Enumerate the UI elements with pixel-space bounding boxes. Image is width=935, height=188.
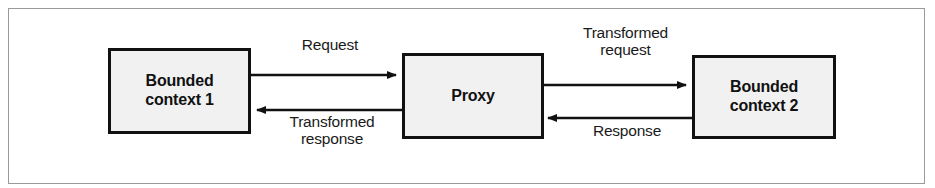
- node-proxy-label: Proxy: [451, 87, 494, 106]
- node-bounded-context-2: Bounded context 2: [692, 55, 836, 139]
- node-bounded-context-2-label: Bounded context 2: [730, 78, 798, 116]
- diagram-figure: Bounded context 1 Proxy Bounded context …: [0, 0, 935, 188]
- edge-label-transformed-response: Transformed response: [252, 113, 412, 148]
- edge-label-transformed-request: Transformed request: [548, 24, 703, 59]
- edge-label-request: Request: [255, 36, 405, 53]
- edge-label-response: Response: [552, 122, 702, 139]
- node-bounded-context-1: Bounded context 1: [108, 48, 251, 134]
- node-bounded-context-1-label: Bounded context 1: [145, 72, 213, 110]
- node-proxy: Proxy: [402, 53, 544, 139]
